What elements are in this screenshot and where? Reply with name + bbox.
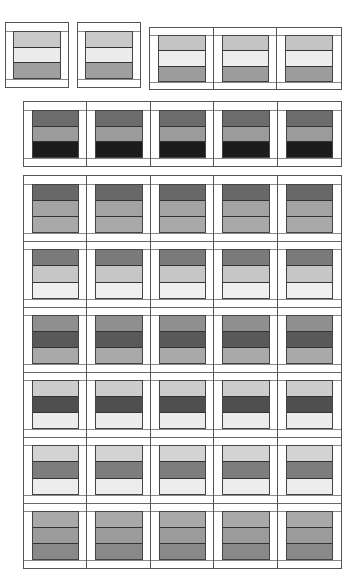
bottom-stripe [223,282,268,298]
middle-stripe [223,200,268,216]
top-stripe [33,512,78,527]
tricolor-flag [95,315,142,364]
middle-stripe [160,461,205,477]
bottom-stripe [223,347,268,363]
middle-stripe [223,126,268,142]
middle-stripe [160,265,205,281]
bottom-stripe [86,62,132,78]
top-stripe [96,111,141,126]
middle-stripe [96,396,141,412]
bottom-stripe [287,141,332,157]
bottom-stripe [223,216,268,232]
middle-stripe [33,126,78,142]
swatch-cell [278,437,341,502]
tricolor-flag [286,110,333,158]
middle-stripe [287,265,332,281]
middle-stripe [33,200,78,216]
tricolor-flag [32,380,79,429]
bottom-stripe [160,216,205,232]
top-stripe [223,446,268,461]
middle-stripe [287,461,332,477]
swatch-cell [24,176,87,241]
top-stripe [223,316,268,331]
top-stripe [160,250,205,265]
tricolor-flag [286,184,333,233]
swatch-cell [278,372,341,437]
middle-stripe [96,126,141,142]
top-stripe [287,381,332,396]
tricolor-flag [286,511,333,560]
swatch-cell [6,23,68,87]
top-stripe [223,512,268,527]
tricolor-flag [286,380,333,429]
middle-stripe [96,461,141,477]
bottom-stripe [223,66,269,81]
middle-stripe [96,331,141,347]
swatch-cell [87,307,150,372]
tricolor-flag [13,31,61,79]
bottom-stripe [160,282,205,298]
middle-stripe [33,461,78,477]
swatch-cell [151,307,214,372]
swatch-cell [214,307,277,372]
swatch-cell [151,372,214,437]
bottom-stripe [223,478,268,494]
bottom-stripe [160,347,205,363]
top-stripe [287,316,332,331]
tricolor-flag [222,380,269,429]
bottom-stripe [96,543,141,559]
top-stripe [14,32,60,47]
swatch-cell [150,28,214,89]
top-stripe [159,36,205,50]
swatch-cell [214,503,277,568]
swatch-cell [278,503,341,568]
middle-stripe [33,265,78,281]
tricolor-flag [222,315,269,364]
middle-stripe [160,200,205,216]
top-stripe [33,316,78,331]
bottom-stripe [96,478,141,494]
swatch-cell [151,437,214,502]
middle-stripe [286,50,332,65]
middle-stripe [223,50,269,65]
bottom-stripe [14,62,60,78]
swatch-cell [78,23,140,87]
tricolor-flag [32,315,79,364]
middle-stripe [287,126,332,142]
top-stripe [223,381,268,396]
bottom-stripe [33,478,78,494]
top-stripe [96,185,141,200]
top-stripe [223,250,268,265]
top-stripe [287,111,332,126]
middle-stripe [287,396,332,412]
tricolor-flag [286,315,333,364]
tricolor-flag [85,31,133,79]
bottom-stripe [96,141,141,157]
tricolor-flag [32,110,79,158]
tricolor-flag [222,249,269,298]
bottom-stripe [160,141,205,157]
swatch-cell [214,241,277,306]
swatch-cell [87,176,150,241]
middle-stripe [96,200,141,216]
tricolor-flag [158,35,206,82]
middle-stripe [33,396,78,412]
swatch-cell [24,241,87,306]
bottom-stripe [286,66,332,81]
bottom-stripe [223,141,268,157]
middle-stripe [160,126,205,142]
tricolor-flag [95,249,142,298]
top-stripe [160,185,205,200]
top-stripe [96,446,141,461]
top-stripe [33,381,78,396]
middle-stripe [159,50,205,65]
bottom-stripe [33,141,78,157]
tricolor-flag [95,445,142,494]
middle-stripe [223,265,268,281]
bottom-stripe [287,478,332,494]
top-stripe [96,512,141,527]
swatch-cell [87,437,150,502]
swatch-cell [151,176,214,241]
top-stripe [223,185,268,200]
middle-stripe [86,47,132,63]
